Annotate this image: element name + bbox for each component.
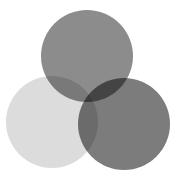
venn-diagram <box>0 0 186 181</box>
circle-right <box>78 78 170 170</box>
